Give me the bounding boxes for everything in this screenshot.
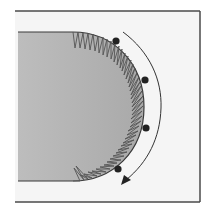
pivot-dot (142, 124, 149, 131)
stitch-diagram (0, 0, 210, 217)
pivot-dot (141, 76, 148, 83)
pivot-dot (114, 165, 121, 172)
pivot-dot (112, 37, 119, 44)
